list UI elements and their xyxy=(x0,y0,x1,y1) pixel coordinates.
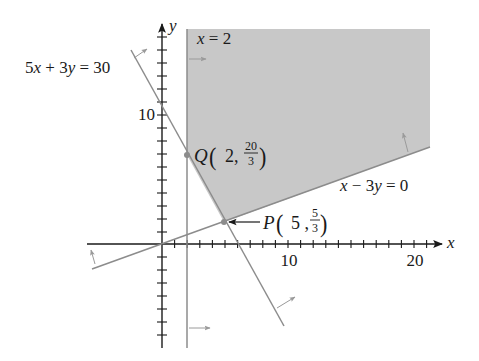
constraint-label-x-eq-2: x = 2 xyxy=(196,29,231,48)
x-axis-label: x xyxy=(446,233,455,252)
vertex-P-y-denominator: 3 xyxy=(312,221,318,235)
vertex-point-icon xyxy=(221,219,227,225)
vertex-Q-name: Q xyxy=(194,145,208,166)
paren-open: ( xyxy=(209,142,216,170)
vertex-P-y-numerator: 5 xyxy=(312,206,318,220)
vertex-Q-x: 2, xyxy=(225,146,239,166)
vertex-P-x: 5 , xyxy=(291,213,309,233)
constraint-label-x-minus-3y: x − 3y = 0 xyxy=(339,176,408,195)
paren-close: ) xyxy=(320,209,327,237)
vertex-Q-y-numerator: 20 xyxy=(245,139,257,153)
feasible-region-diagram: 10 20 x xyxy=(0,0,479,361)
feasible-direction-arrow-icon xyxy=(277,297,295,308)
x-axis-ticks xyxy=(175,240,427,248)
y-tick-label-10: 10 xyxy=(138,105,155,124)
paren-close: ) xyxy=(259,142,266,170)
paren-open: ( xyxy=(276,209,283,237)
vertex-P-name: P xyxy=(262,212,275,233)
y-axis-label: y xyxy=(167,16,177,35)
vertex-Q-y-denominator: 3 xyxy=(248,154,254,168)
vertex-point-icon xyxy=(184,152,190,158)
constraint-label-5x-plus-3y: 5x + 3y = 30 xyxy=(25,58,110,77)
x-tick-label-20: 20 xyxy=(407,251,424,270)
x-tick-label-10: 10 xyxy=(281,251,298,270)
y-axis: 10 y xyxy=(138,16,177,348)
feasible-direction-arrow-icon xyxy=(134,49,147,58)
feasible-direction-arrow-icon xyxy=(91,250,95,264)
